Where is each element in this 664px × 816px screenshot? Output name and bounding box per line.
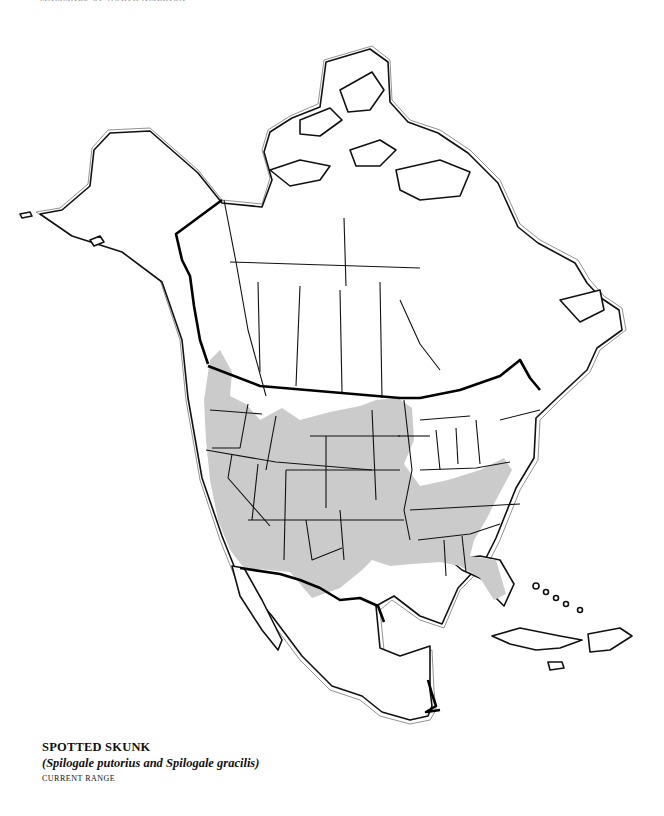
continent-landmass: [20, 49, 632, 720]
map-legend: SPOTTED SKUNK (Spilogale putorius and Sp…: [42, 740, 259, 783]
legend-species: (Spilogale putorius and Spilogale gracil…: [42, 756, 259, 771]
legend-subtitle: CURRENT RANGE: [42, 774, 259, 783]
north-america-map: [0, 0, 664, 816]
legend-title: SPOTTED SKUNK: [42, 740, 259, 755]
